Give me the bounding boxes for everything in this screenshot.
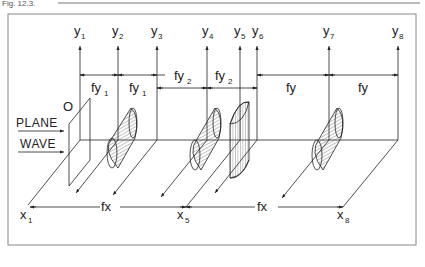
svg-text:y: y [151, 23, 158, 38]
svg-text:1: 1 [142, 89, 147, 98]
svg-text:y: y [234, 23, 241, 38]
svg-text:O: O [63, 99, 73, 114]
svg-text:y: y [112, 23, 119, 38]
cylindrical-lens-4 [312, 108, 343, 170]
svg-text:fx: fx [101, 199, 112, 214]
svg-text:y: y [323, 23, 330, 38]
cylindrical-lens-2 [190, 108, 221, 170]
svg-text:4: 4 [209, 32, 214, 41]
svg-text:1: 1 [28, 216, 33, 225]
svg-text:fy: fy [174, 68, 185, 83]
svg-text:3: 3 [158, 32, 163, 41]
svg-text:x: x [337, 207, 344, 222]
optical-diagram: Fig. 12.3. [0, 0, 425, 267]
svg-text:8: 8 [345, 216, 350, 225]
svg-text:y: y [74, 23, 81, 38]
cylindrical-lens-3 [230, 102, 249, 178]
svg-text:fy: fy [129, 80, 140, 95]
svg-text:Fig. 12.3.: Fig. 12.3. [2, 0, 35, 8]
svg-text:5: 5 [241, 32, 246, 41]
input-labels: O PLANE WAVE [16, 99, 73, 151]
svg-text:6: 6 [259, 32, 264, 41]
svg-text:y: y [202, 23, 209, 38]
y-axis-labels: y1 y2 y3 y4 y5 y6 y7 y8 [74, 23, 404, 41]
svg-text:1: 1 [81, 32, 86, 41]
svg-text:1: 1 [104, 89, 109, 98]
svg-text:y: y [252, 23, 259, 38]
caption: Fig. 12.3. [2, 0, 420, 8]
svg-text:2: 2 [228, 77, 233, 86]
top-dimension-labels: fy1 fy1 fy2 fy2 fy fy [91, 68, 369, 98]
cylindrical-lens-1 [107, 108, 137, 168]
svg-text:y: y [392, 23, 399, 38]
svg-text:fy: fy [91, 80, 102, 95]
svg-text:x: x [177, 207, 184, 222]
x-axis-labels: x1 x5 x8 [20, 207, 350, 225]
svg-text:PLANE: PLANE [16, 116, 58, 130]
svg-text:8: 8 [399, 32, 404, 41]
bottom-dimension-labels: fx fx [101, 199, 268, 214]
svg-text:2: 2 [119, 32, 124, 41]
svg-text:2: 2 [187, 77, 192, 86]
svg-text:x: x [20, 207, 27, 222]
svg-text:7: 7 [330, 32, 335, 41]
x8-diagonal [343, 140, 398, 207]
svg-text:5: 5 [185, 216, 190, 225]
svg-text:fx: fx [257, 199, 268, 214]
svg-text:fy: fy [215, 68, 226, 83]
svg-text:fy: fy [358, 80, 369, 95]
svg-text:WAVE: WAVE [20, 137, 56, 151]
svg-text:fy: fy [286, 80, 297, 95]
